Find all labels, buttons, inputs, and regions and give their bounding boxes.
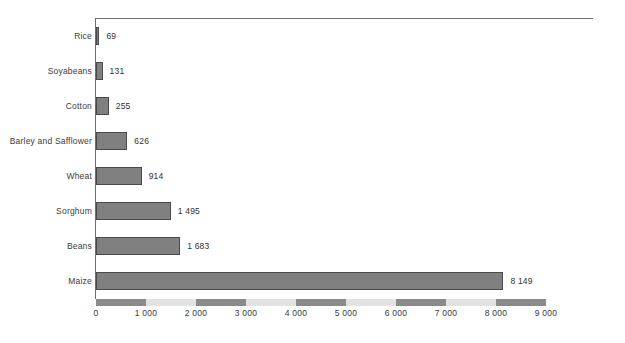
bar-and-value: 626 (96, 132, 149, 150)
bar[interactable] (96, 97, 109, 115)
bar-value-label: 131 (110, 66, 125, 76)
bar-and-value: 69 (96, 27, 116, 45)
x-tick-label: 8 000 (485, 308, 507, 318)
bar-value-label: 69 (106, 31, 116, 41)
bar-chart: Rice69Soyabeans131Cotton255Barley and Sa… (0, 0, 625, 343)
category-label: Beans (0, 241, 92, 251)
bar[interactable] (96, 237, 180, 255)
x-tick-label: 7 000 (435, 308, 457, 318)
category-label: Rice (0, 31, 92, 41)
x-axis-tick-labels: 01 0002 0003 0004 0005 0006 0007 0008 00… (0, 308, 625, 322)
axis-band-segment (446, 299, 496, 306)
x-axis-band (96, 299, 546, 306)
category-label: Sorghum (0, 206, 92, 216)
bar-row: Soyabeans131 (0, 53, 625, 88)
bar[interactable] (96, 27, 99, 45)
axis-band-segment (196, 299, 246, 306)
bar-value-label: 1 683 (187, 241, 209, 251)
x-tick-label: 9 000 (535, 308, 557, 318)
bar-row: Cotton255 (0, 88, 625, 123)
bar-value-label: 255 (116, 101, 131, 111)
category-label: Barley and Safflower (0, 136, 92, 146)
bar[interactable] (96, 132, 127, 150)
axis-band-segment (96, 299, 146, 306)
bar-value-label: 914 (149, 171, 164, 181)
bar-row: Barley and Safflower626 (0, 123, 625, 158)
x-tick-label: 4 000 (285, 308, 307, 318)
category-label: Soyabeans (0, 66, 92, 76)
axis-band-segment (346, 299, 396, 306)
bar[interactable] (96, 272, 503, 290)
bar-value-label: 626 (134, 136, 149, 146)
x-tick-label: 6 000 (385, 308, 407, 318)
bar-rows: Rice69Soyabeans131Cotton255Barley and Sa… (0, 18, 625, 299)
bar-and-value: 255 (96, 97, 131, 115)
x-tick-label: 2 000 (185, 308, 207, 318)
bar-row: Wheat914 (0, 158, 625, 193)
bar-and-value: 914 (96, 167, 163, 185)
axis-band-segment (496, 299, 546, 306)
bar-row: Maize8 149 (0, 263, 625, 298)
x-tick-label: 5 000 (335, 308, 357, 318)
x-tick-label: 0 (94, 308, 99, 318)
x-tick-label: 3 000 (235, 308, 257, 318)
bar[interactable] (96, 167, 142, 185)
axis-band-segment (396, 299, 446, 306)
bar-row: Beans1 683 (0, 228, 625, 263)
axis-band-segment (296, 299, 346, 306)
category-label: Wheat (0, 171, 92, 181)
axis-band-segment (146, 299, 196, 306)
axis-band-segment (246, 299, 296, 306)
bar-and-value: 1 683 (96, 237, 209, 255)
bar-row: Sorghum1 495 (0, 193, 625, 228)
bar-value-label: 8 149 (510, 276, 532, 286)
bar-value-label: 1 495 (178, 206, 200, 216)
bar-and-value: 131 (96, 62, 124, 80)
category-label: Cotton (0, 101, 92, 111)
bar-and-value: 1 495 (96, 202, 200, 220)
x-tick-label: 1 000 (135, 308, 157, 318)
bar[interactable] (96, 62, 103, 80)
bar[interactable] (96, 202, 171, 220)
category-label: Maize (0, 276, 92, 286)
bar-and-value: 8 149 (96, 272, 533, 290)
bar-row: Rice69 (0, 18, 625, 53)
